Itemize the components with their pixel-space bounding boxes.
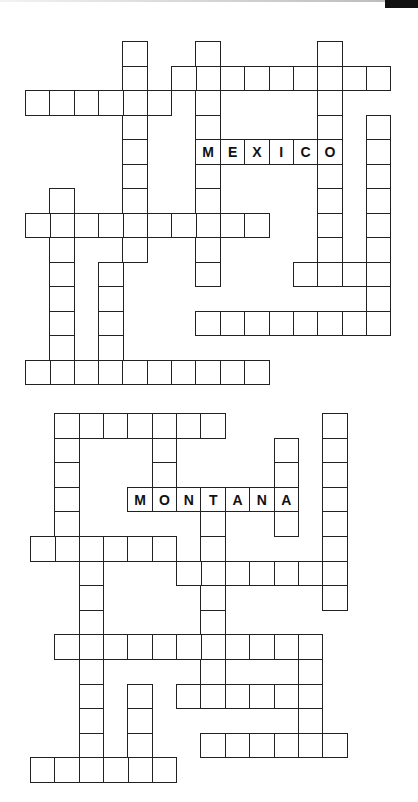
crossword-cell[interactable] — [49, 213, 75, 239]
crossword-cell[interactable] — [147, 90, 173, 116]
crossword-cell[interactable] — [54, 462, 80, 488]
crossword-cell[interactable] — [127, 708, 153, 734]
crossword-cell[interactable] — [25, 90, 51, 116]
crossword-cell[interactable] — [79, 610, 105, 636]
crossword-cell[interactable] — [298, 561, 324, 587]
crossword-cell[interactable] — [220, 66, 246, 92]
crossword-cell[interactable] — [317, 41, 343, 67]
crossword-cell[interactable] — [225, 684, 251, 710]
crossword-cell[interactable] — [366, 237, 392, 263]
crossword-cell[interactable] — [195, 188, 221, 214]
crossword-cell[interactable] — [200, 610, 226, 636]
crossword-cell[interactable] — [147, 360, 173, 386]
crossword-cell[interactable] — [79, 634, 105, 660]
crossword-cell[interactable] — [49, 335, 75, 361]
crossword-cell[interactable] — [317, 311, 343, 337]
crossword-cell[interactable] — [274, 438, 300, 464]
crossword-cell[interactable] — [79, 757, 105, 783]
crossword-cell[interactable] — [274, 634, 300, 660]
crossword-cell[interactable] — [322, 438, 348, 464]
crossword-cell[interactable] — [366, 66, 392, 92]
crossword-cell[interactable] — [317, 66, 343, 92]
crossword-cell[interactable] — [249, 733, 275, 759]
crossword-cell[interactable] — [98, 286, 124, 312]
crossword-cell[interactable] — [200, 561, 226, 587]
crossword-cell[interactable] — [220, 360, 246, 386]
crossword-cell[interactable] — [74, 360, 100, 386]
crossword-cell[interactable] — [49, 90, 75, 116]
crossword-cell[interactable] — [122, 188, 148, 214]
crossword-cell[interactable] — [298, 708, 324, 734]
crossword-cell[interactable] — [98, 262, 124, 288]
crossword-cell[interactable] — [249, 561, 275, 587]
crossword-cell[interactable] — [342, 262, 368, 288]
crossword-cell[interactable] — [322, 536, 348, 562]
crossword-cell[interactable] — [366, 311, 392, 337]
crossword-cell[interactable] — [176, 684, 202, 710]
crossword-cell[interactable] — [54, 757, 80, 783]
crossword-cell[interactable] — [195, 115, 221, 141]
crossword-cell[interactable] — [122, 164, 148, 190]
crossword-cell[interactable] — [249, 684, 275, 710]
crossword-cell[interactable] — [122, 115, 148, 141]
crossword-cell[interactable] — [103, 413, 129, 439]
crossword-cell[interactable] — [317, 164, 343, 190]
crossword-cell[interactable] — [54, 413, 80, 439]
crossword-cell[interactable] — [127, 536, 153, 562]
crossword-cell[interactable] — [103, 757, 129, 783]
crossword-cell[interactable] — [49, 262, 75, 288]
crossword-cell[interactable] — [49, 237, 75, 263]
crossword-cell[interactable] — [122, 237, 148, 263]
crossword-cell[interactable] — [152, 757, 178, 783]
crossword-cell[interactable] — [152, 634, 178, 660]
crossword-cell[interactable] — [200, 684, 226, 710]
crossword-cell[interactable] — [366, 286, 392, 312]
crossword-cell[interactable] — [200, 511, 226, 537]
crossword-cell[interactable] — [225, 561, 251, 587]
crossword-cell[interactable] — [152, 413, 178, 439]
crossword-cell[interactable] — [122, 360, 148, 386]
crossword-cell[interactable] — [293, 311, 319, 337]
crossword-cell[interactable] — [195, 90, 221, 116]
crossword-cell[interactable] — [200, 413, 226, 439]
crossword-cell[interactable] — [322, 585, 348, 611]
crossword-cell[interactable] — [127, 757, 153, 783]
crossword-cell[interactable] — [195, 311, 221, 337]
crossword-cell[interactable] — [79, 561, 105, 587]
crossword-cell[interactable] — [98, 360, 124, 386]
crossword-cell[interactable] — [49, 188, 75, 214]
crossword-cell[interactable] — [171, 360, 197, 386]
crossword-cell[interactable] — [200, 733, 226, 759]
crossword-cell[interactable] — [79, 536, 105, 562]
crossword-cell[interactable] — [195, 66, 221, 92]
crossword-cell[interactable] — [195, 262, 221, 288]
crossword-cell[interactable] — [195, 164, 221, 190]
crossword-cell[interactable] — [293, 262, 319, 288]
crossword-cell[interactable] — [220, 311, 246, 337]
crossword-cell[interactable] — [195, 213, 221, 239]
crossword-cell[interactable] — [152, 438, 178, 464]
crossword-cell[interactable] — [322, 733, 348, 759]
crossword-cell[interactable] — [366, 139, 392, 165]
crossword-cell[interactable] — [54, 487, 80, 513]
crossword-cell[interactable] — [293, 66, 319, 92]
crossword-cell[interactable] — [54, 511, 80, 537]
crossword-cell[interactable] — [317, 90, 343, 116]
crossword-cell[interactable] — [74, 90, 100, 116]
crossword-cell[interactable] — [317, 262, 343, 288]
crossword-cell[interactable] — [176, 561, 202, 587]
crossword-cell[interactable] — [366, 164, 392, 190]
crossword-cell[interactable] — [200, 634, 226, 660]
crossword-cell[interactable] — [220, 213, 246, 239]
crossword-cell[interactable] — [152, 536, 178, 562]
crossword-cell[interactable] — [79, 708, 105, 734]
crossword-cell[interactable] — [103, 536, 129, 562]
crossword-cell[interactable] — [200, 585, 226, 611]
crossword-cell[interactable] — [79, 413, 105, 439]
crossword-cell[interactable] — [98, 335, 124, 361]
crossword-cell[interactable] — [79, 733, 105, 759]
crossword-cell[interactable] — [49, 311, 75, 337]
crossword-cell[interactable] — [98, 90, 124, 116]
crossword-cell[interactable] — [152, 462, 178, 488]
crossword-cell[interactable] — [244, 311, 270, 337]
